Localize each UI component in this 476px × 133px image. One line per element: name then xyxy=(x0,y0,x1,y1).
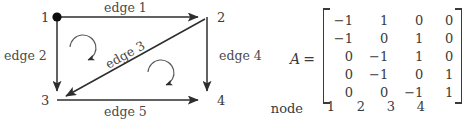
matrix-cell: 1 xyxy=(388,29,423,47)
matrix-column-header: 1 xyxy=(307,100,335,113)
matrix-cell: 0 xyxy=(423,11,453,29)
node-label-1: 1 xyxy=(41,11,49,24)
matrix-cell: 1 xyxy=(423,83,453,101)
matrix-cell: 0 xyxy=(353,29,388,47)
edge-3-line xyxy=(66,19,205,96)
matrix-name-label: A xyxy=(290,8,303,66)
matrix-row: −1 0 1 0 xyxy=(332,29,454,47)
matrix-column-header: 4 xyxy=(395,100,425,113)
matrix-cell: −1 xyxy=(332,29,353,47)
matrix-cell: −1 xyxy=(353,65,388,83)
incidence-matrix-figure: 1 2 3 4 edge 1 edge 2 edge 3 edge 4 edge… xyxy=(0,0,476,133)
matrix-value-table: −1 1 0 0 −1 0 1 0 xyxy=(332,11,454,101)
matrix-column-header-table: 1 2 3 4 xyxy=(307,100,425,113)
matrix-column-header: 3 xyxy=(365,100,395,113)
matrix-body: −1 1 0 0 −1 0 1 0 xyxy=(323,8,463,104)
matrix-equation: A = xyxy=(290,8,462,104)
edge-label-1: edge 1 xyxy=(104,2,147,15)
incidence-matrix: A = xyxy=(250,0,476,133)
matrix-row: −1 1 0 0 xyxy=(332,11,454,29)
matrix-cell: 0 xyxy=(332,47,353,65)
matrix-column-axis: node 1 2 3 4 xyxy=(250,100,425,115)
matrix-column-header: 2 xyxy=(335,100,365,113)
matrix-cell: 1 xyxy=(423,65,453,83)
edge-label-5: edge 5 xyxy=(104,106,147,119)
matrix-cell: 0 xyxy=(332,83,353,101)
matrix-cell: 0 xyxy=(332,65,353,83)
matrix-cell: 0 xyxy=(423,29,453,47)
directed-graph-diagram: 1 2 3 4 edge 1 edge 2 edge 3 edge 4 edge… xyxy=(0,0,250,133)
matrix-right-bracket-icon xyxy=(455,8,462,104)
matrix-row: 0 −1 1 0 xyxy=(332,47,454,65)
matrix-cell: −1 xyxy=(353,47,388,65)
matrix-cell: −1 xyxy=(332,11,353,29)
matrix-cell: 0 xyxy=(423,47,453,65)
matrix-column-header-row: 1 2 3 4 xyxy=(307,100,425,113)
node-label-2: 2 xyxy=(217,11,225,24)
node-label-4: 4 xyxy=(217,94,225,107)
matrix-equals-sign: = xyxy=(303,8,323,66)
matrix-bracket-group: −1 1 0 0 −1 0 1 0 xyxy=(323,8,463,104)
loop-arrow-upper-icon xyxy=(70,35,96,60)
matrix-column-axis-label: node xyxy=(250,102,307,115)
node-1-dot-icon xyxy=(52,12,61,21)
matrix-cell: 1 xyxy=(388,47,423,65)
matrix-cell: 1 xyxy=(353,11,388,29)
matrix-left-bracket-icon xyxy=(323,8,330,104)
matrix-cell: 0 xyxy=(388,11,423,29)
loop-arrow-lower-icon xyxy=(148,60,174,85)
edge-label-2: edge 2 xyxy=(4,50,47,63)
matrix-cell: 0 xyxy=(388,65,423,83)
node-label-3: 3 xyxy=(41,94,49,107)
matrix-row: 0 −1 0 1 xyxy=(332,65,454,83)
